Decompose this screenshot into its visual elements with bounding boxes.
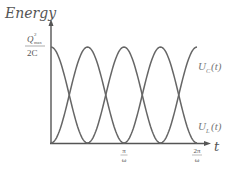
svg-text:ω: ω	[195, 156, 200, 164]
y-tick-sup: 2	[34, 32, 37, 37]
u-c-label: U C (t)	[198, 60, 222, 74]
svg-text:(t): (t)	[211, 60, 222, 73]
y-tick-label: Q 2 max 2C	[25, 32, 45, 58]
energy-chart: Energy t Q 2 max 2C π ω 2π ω U C (t) U L…	[0, 0, 232, 170]
y-tick-sub: max	[34, 40, 42, 45]
y-tick-denominator: 2C	[27, 48, 38, 58]
svg-text:π: π	[122, 147, 126, 155]
u-l-curve	[51, 47, 197, 143]
svg-text:2π: 2π	[193, 147, 201, 155]
x-tick-2pi-over-omega: 2π ω	[192, 147, 202, 164]
y-tick-numerator: Q	[27, 34, 34, 44]
svg-text:ω: ω	[122, 156, 127, 164]
x-axis-arrow-icon	[204, 141, 211, 146]
x-axis-label: t	[214, 139, 220, 154]
u-l-label: U L (t)	[198, 120, 222, 134]
y-axis-label: Energy	[4, 5, 57, 21]
x-tick-pi-over-omega: π ω	[121, 147, 128, 164]
u-c-curve	[51, 47, 197, 143]
svg-text:L: L	[205, 127, 210, 134]
svg-text:(t): (t)	[211, 120, 222, 133]
